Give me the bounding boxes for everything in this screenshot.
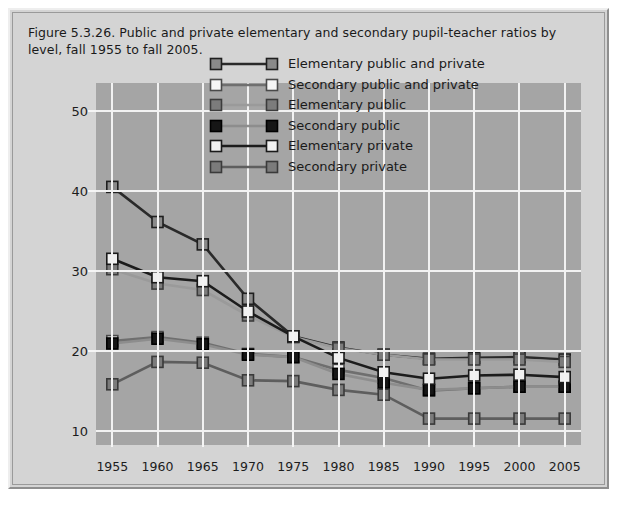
legend-label: Secondary public xyxy=(288,118,400,133)
x-axis-ticks: 1955196019651970197519801985199019952000… xyxy=(96,445,581,485)
x-tick-mark xyxy=(383,435,385,447)
legend-marker-icon xyxy=(208,75,280,95)
y-axis-ticks: 1020304050 xyxy=(36,83,88,445)
gridline-vertical xyxy=(518,83,520,445)
legend-marker-icon xyxy=(208,95,280,115)
gridline-vertical xyxy=(202,83,204,445)
x-tick-mark xyxy=(247,435,249,447)
legend-marker-icon xyxy=(208,157,280,177)
legend-label: Elementary private xyxy=(288,138,413,153)
x-tick-mark xyxy=(338,435,340,447)
legend-item[interactable]: Elementary public and private xyxy=(208,54,468,75)
y-tick-label: 50 xyxy=(48,103,88,118)
x-tick-mark xyxy=(564,435,566,447)
y-tick-label: 10 xyxy=(48,423,88,438)
y-tick-label: 40 xyxy=(48,183,88,198)
x-tick-label: 2005 xyxy=(537,459,593,474)
figure-frame: Figure 5.3.26. Public and private elemen… xyxy=(8,8,609,489)
legend-label: Secondary public and private xyxy=(288,77,479,92)
x-tick-mark xyxy=(428,435,430,447)
y-tick-label: 30 xyxy=(48,263,88,278)
legend-marker-icon xyxy=(208,136,280,156)
chart-legend: Elementary public and privateSecondary p… xyxy=(208,54,468,177)
legend-marker-icon xyxy=(208,116,280,136)
gridline-vertical xyxy=(473,83,475,445)
legend-item[interactable]: Secondary public and private xyxy=(208,75,468,96)
gridline-vertical xyxy=(564,83,566,445)
x-tick-mark xyxy=(292,435,294,447)
gridline-vertical xyxy=(111,83,113,445)
x-tick-mark xyxy=(473,435,475,447)
y-tick-label: 20 xyxy=(48,343,88,358)
legend-marker-icon xyxy=(208,54,280,74)
legend-label: Elementary public xyxy=(288,97,406,112)
x-tick-mark xyxy=(202,435,204,447)
legend-item[interactable]: Secondary private xyxy=(208,157,468,178)
gridline-vertical xyxy=(157,83,159,445)
x-tick-mark xyxy=(518,435,520,447)
x-tick-mark xyxy=(111,435,113,447)
x-tick-mark xyxy=(157,435,159,447)
legend-label: Elementary public and private xyxy=(288,56,485,71)
legend-label: Secondary private xyxy=(288,159,407,174)
legend-item[interactable]: Secondary public xyxy=(208,116,468,137)
legend-item[interactable]: Elementary private xyxy=(208,136,468,157)
legend-item[interactable]: Elementary public xyxy=(208,95,468,116)
